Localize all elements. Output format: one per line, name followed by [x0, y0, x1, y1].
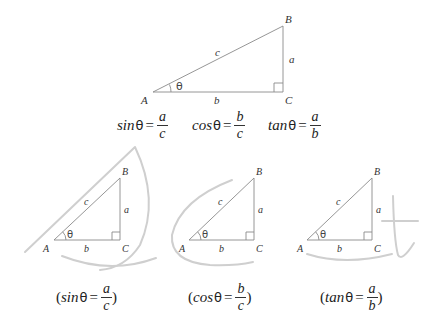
numerator: a	[101, 282, 112, 298]
panel-sin-triangle: θ A B C c a b	[42, 166, 129, 254]
mnemonic-stroke-s-lower	[62, 256, 156, 266]
fraction: ac	[101, 282, 112, 313]
equals-sign: =	[355, 289, 363, 306]
main-triangle-shape	[153, 26, 283, 92]
denominator: c	[237, 126, 243, 141]
side-a-label: a	[124, 204, 129, 215]
theta-symbol: θ	[288, 118, 296, 133]
side-c-label: c	[218, 196, 223, 207]
formula-tan: tanθ= ab	[268, 110, 321, 141]
equals-sign: =	[89, 289, 97, 306]
angle-arc	[316, 232, 319, 240]
angle-theta-label: θ	[320, 229, 326, 240]
vertex-b-label: B	[256, 166, 262, 177]
right-angle-marker	[364, 232, 372, 240]
angle-theta-label: θ	[176, 80, 183, 93]
theta-symbol: θ	[214, 290, 222, 305]
theta-symbol: θ	[80, 290, 88, 305]
close-paren: )	[246, 289, 251, 306]
theta-symbol: θ	[345, 290, 353, 305]
vertex-b-label: B	[285, 13, 292, 25]
close-paren: )	[112, 289, 117, 306]
fraction: ab	[367, 282, 378, 313]
vertex-a-label: A	[42, 243, 50, 254]
fraction: bc	[234, 110, 245, 141]
vertex-c-label: C	[285, 94, 293, 106]
panel-cos-triangle: θ A B C c a b	[178, 166, 263, 254]
close-paren: )	[378, 289, 383, 306]
main-triangle: θ A B C c a b	[140, 13, 295, 106]
right-angle-marker	[246, 232, 254, 240]
denominator: c	[238, 298, 244, 313]
angle-arc	[170, 85, 172, 93]
denominator: b	[369, 298, 376, 313]
theta-symbol: θ	[213, 118, 221, 133]
vertex-c-label: C	[122, 243, 129, 254]
right-angle-marker	[274, 83, 283, 92]
equals-sign: =	[298, 117, 306, 134]
right-angle-marker	[112, 232, 120, 240]
vertex-a-label: A	[140, 94, 148, 106]
triangle-shape	[54, 178, 120, 240]
vertex-b-label: B	[374, 166, 380, 177]
function-name: cos	[193, 289, 213, 306]
numerator: a	[157, 110, 168, 126]
angle-arc	[63, 232, 66, 240]
vertex-a-label: A	[178, 243, 186, 254]
vertex-b-label: B	[122, 166, 128, 177]
triangle-shape	[189, 178, 254, 240]
numerator: b	[234, 110, 245, 126]
vertex-c-label: C	[374, 243, 381, 254]
numerator: a	[367, 282, 378, 298]
denominator: c	[159, 126, 165, 141]
angle-arc	[198, 232, 201, 240]
triangle-shape	[307, 178, 372, 240]
fraction: bc	[235, 282, 246, 313]
side-c-label: c	[84, 196, 89, 207]
numerator: b	[235, 282, 246, 298]
function-name: sin	[61, 289, 79, 306]
angle-theta-label: θ	[67, 229, 73, 240]
theta-symbol: θ	[136, 118, 144, 133]
vertex-c-label: C	[256, 243, 263, 254]
side-a-label: a	[376, 204, 381, 215]
angle-theta-label: θ	[202, 229, 208, 240]
mnemonic-stroke-t-base	[307, 254, 392, 260]
trig-diagram: θ A B C c a b θ A B C c a b θ A B C c a …	[0, 0, 438, 325]
mnemonic-stroke-t-stem	[393, 196, 414, 257]
panel-tan-formula: (tanθ= ab)	[320, 282, 383, 313]
denominator: c	[103, 298, 109, 313]
side-b-label: b	[219, 243, 224, 254]
vertex-a-label: A	[296, 243, 304, 254]
side-a-label: a	[258, 204, 263, 215]
panel-cos-formula: (cosθ= bc)	[188, 282, 251, 313]
fraction: ab	[310, 110, 321, 141]
panel-tan-triangle: θ A B C c a b	[296, 166, 381, 254]
numerator: a	[310, 110, 321, 126]
formula-sin: sinθ= ac	[117, 110, 168, 141]
fraction: ac	[157, 110, 168, 141]
function-name: tan	[268, 117, 287, 134]
function-name: cos	[192, 117, 212, 134]
side-c-label: c	[336, 196, 341, 207]
side-b-label: b	[214, 94, 220, 106]
equals-sign: =	[223, 117, 231, 134]
function-name: tan	[325, 289, 344, 306]
denominator: b	[312, 126, 319, 141]
function-name: sin	[117, 117, 135, 134]
formula-cos: cosθ= bc	[192, 110, 245, 141]
panel-sin-formula: (sinθ= ac)	[56, 282, 117, 313]
side-b-label: b	[84, 243, 89, 254]
side-b-label: b	[337, 243, 342, 254]
equals-sign: =	[145, 117, 153, 134]
side-c-label: c	[215, 46, 220, 58]
equals-sign: =	[224, 289, 232, 306]
side-a-label: a	[289, 53, 295, 65]
